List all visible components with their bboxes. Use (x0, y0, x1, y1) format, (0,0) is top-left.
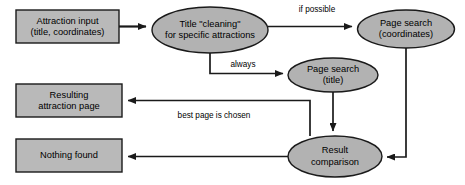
node-title-cleaning[interactable]: Title "cleaning" for specific attraction… (152, 7, 268, 53)
attraction-input-label-line1: Attraction input (36, 16, 98, 26)
title-cleaning-label-line2: for specific attractions (165, 30, 255, 40)
result-comparison-label-line1: Result (322, 145, 349, 155)
node-page-search-coordinates[interactable]: Page search (coordinates) (358, 10, 455, 48)
resulting-attraction-page-label-line1: Resulting (50, 90, 89, 100)
flowchart-canvas: Attraction input (title, coordinates) Ti… (0, 0, 465, 185)
node-result-comparison[interactable]: Result comparison (288, 136, 382, 177)
node-resulting-attraction-page[interactable]: Resulting attraction page (16, 84, 122, 117)
edge-label-if-possible: if possible (299, 5, 336, 14)
nothing-found-label-line1: Nothing found (40, 150, 98, 160)
attraction-input-label-line2: (title, coordinates) (31, 27, 105, 37)
page-search-coordinates-label-line2: (coordinates) (379, 29, 433, 39)
page-search-coordinates-label-line1: Page search (380, 18, 432, 28)
edge-label-best-page-is-chosen: best page is chosen (178, 111, 251, 120)
node-nothing-found[interactable]: Nothing found (16, 139, 122, 172)
edge-coordinates-to-comparison (387, 48, 406, 157)
flowchart-diagram: Attraction input (title, coordinates) Ti… (0, 0, 465, 185)
page-search-title-label-line1: Page search (307, 64, 359, 74)
page-search-title-label-line2: (title) (323, 75, 344, 85)
result-comparison-label-line2: comparison (311, 157, 359, 167)
resulting-attraction-page-label-line2: attraction page (38, 101, 100, 111)
edge-label-always: always (230, 60, 255, 69)
node-attraction-input[interactable]: Attraction input (title, coordinates) (16, 10, 119, 43)
title-cleaning-label-line1: Title "cleaning" (179, 19, 240, 29)
node-page-search-title[interactable]: Page search (title) (288, 58, 378, 92)
